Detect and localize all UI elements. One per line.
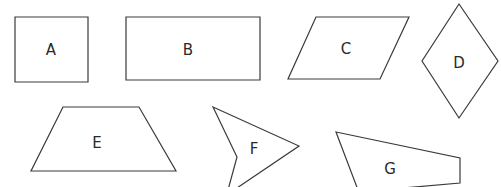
shape-b: B [126, 17, 260, 80]
shape-c: C [288, 17, 409, 79]
shape-label-f: F [250, 140, 259, 158]
shapes-diagram: A B C D E F G [0, 0, 501, 187]
shape-label-g: G [384, 160, 396, 178]
shape-label-d: D [453, 54, 465, 72]
shape-label-e: E [92, 134, 101, 152]
shape-f: F [213, 107, 299, 187]
shape-g: G [336, 132, 460, 187]
irregular-quadrilateral-shape [336, 132, 460, 187]
shape-label-a: A [46, 41, 57, 59]
shape-e: E [31, 107, 176, 171]
shape-label-c: C [341, 40, 351, 58]
shape-label-b: B [183, 41, 193, 59]
shape-d: D [422, 4, 498, 118]
trapezoid-shape [31, 107, 176, 171]
shape-a: A [15, 17, 88, 82]
